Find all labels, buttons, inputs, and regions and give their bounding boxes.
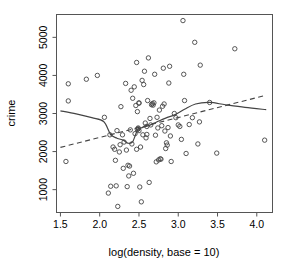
data-point (120, 133, 124, 137)
plot-canvas: 10002000300040005000 1.52.02.53.03.54.0 … (0, 0, 288, 270)
data-point (152, 72, 156, 76)
data-point (138, 185, 142, 189)
y-axis-ticks (53, 37, 57, 189)
data-point (121, 166, 125, 170)
data-point (197, 120, 201, 124)
data-point (66, 82, 70, 86)
data-point (262, 138, 266, 142)
x-tick-label: 1.5 (53, 218, 68, 230)
data-point (141, 82, 145, 86)
y-axis-tick-labels: 10002000300040005000 (37, 26, 49, 202)
y-tick-label: 1000 (37, 178, 49, 202)
data-point (119, 104, 123, 108)
data-point (109, 184, 113, 188)
data-point (64, 159, 68, 163)
data-point (125, 184, 129, 188)
x-axis-title: log(density, base = 10) (109, 246, 220, 258)
y-tick-label: 4000 (37, 64, 49, 88)
data-point (198, 63, 202, 67)
data-point (123, 81, 127, 85)
data-point (187, 122, 191, 126)
x-tick-label: 3.0 (171, 218, 186, 230)
data-point (233, 47, 237, 51)
data-point (181, 18, 185, 22)
data-point (66, 99, 70, 103)
y-tick-label: 2000 (37, 140, 49, 164)
data-point (117, 150, 121, 154)
data-point (116, 204, 120, 208)
data-point (169, 159, 173, 163)
plot-frame (57, 15, 273, 213)
data-point (147, 180, 151, 184)
data-point (182, 72, 186, 76)
data-point (167, 64, 171, 68)
regression-line (60, 95, 266, 147)
data-point (145, 98, 149, 102)
data-point (140, 78, 144, 82)
data-point (146, 56, 150, 60)
data-point (95, 73, 99, 77)
scatter-points-layer (64, 18, 267, 208)
data-point (184, 151, 188, 155)
x-tick-label: 2.0 (92, 218, 107, 230)
data-point (153, 133, 157, 137)
x-tick-label: 2.5 (132, 218, 147, 230)
data-point (193, 40, 197, 44)
x-axis-ticks (60, 213, 256, 217)
data-point (127, 174, 131, 178)
data-point (157, 108, 161, 112)
data-point (84, 77, 88, 81)
data-point (127, 164, 131, 168)
data-point (130, 96, 134, 100)
data-point (215, 151, 219, 155)
data-point (168, 134, 172, 138)
data-point (131, 171, 135, 175)
y-tick-label: 3000 (37, 102, 49, 126)
data-point (161, 66, 165, 70)
data-point (179, 137, 183, 141)
data-point (166, 125, 170, 129)
y-tick-label: 5000 (37, 26, 49, 50)
x-tick-label: 3.5 (210, 218, 225, 230)
x-tick-label: 4.0 (249, 218, 264, 230)
data-point (106, 191, 110, 195)
scatter-plot-figure: 10002000300040005000 1.52.02.53.03.54.0 … (0, 0, 288, 270)
data-point (148, 116, 152, 120)
data-point (138, 145, 142, 149)
x-axis-tick-labels: 1.52.02.53.03.54.0 (53, 218, 264, 230)
y-axis-title: crime (5, 100, 17, 127)
data-point (113, 158, 117, 162)
data-point (102, 115, 106, 119)
data-point (132, 85, 136, 89)
data-point (182, 98, 186, 102)
data-point (135, 109, 139, 113)
data-point (142, 69, 146, 73)
data-point (139, 200, 143, 204)
data-point (160, 123, 164, 127)
data-point (155, 115, 159, 119)
data-point (167, 81, 171, 85)
data-point (196, 142, 200, 146)
data-point (124, 148, 128, 152)
data-point (134, 60, 138, 64)
data-point (114, 184, 118, 188)
data-point (190, 115, 194, 119)
